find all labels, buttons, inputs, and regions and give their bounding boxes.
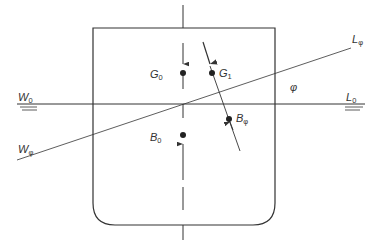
gravity-force-arrow-g1 (203, 42, 210, 64)
stability-diagram: W0 L0 Wφ Lφ G0 G1 B0 Bφ φ (0, 0, 383, 246)
water-surface-mark-left (20, 107, 37, 110)
label-g0: G0 (150, 68, 163, 82)
label-g1: G1 (219, 67, 232, 81)
label-w0: W0 (18, 91, 33, 105)
label-wphi: Wφ (18, 143, 33, 157)
point-g0 (180, 70, 186, 76)
label-bphi: Bφ (236, 112, 248, 126)
buoyancy-force-arrow-bphi (230, 122, 233, 130)
water-surface-mark-right (345, 107, 363, 110)
label-heel-angle-phi: φ (290, 81, 297, 93)
point-bphi (226, 116, 232, 122)
hull-outline (93, 28, 275, 225)
point-b0 (180, 132, 186, 138)
label-lphi: Lφ (352, 33, 363, 47)
point-g1 (209, 70, 215, 76)
label-b0: B0 (150, 131, 162, 145)
label-l0: L0 (346, 91, 356, 105)
